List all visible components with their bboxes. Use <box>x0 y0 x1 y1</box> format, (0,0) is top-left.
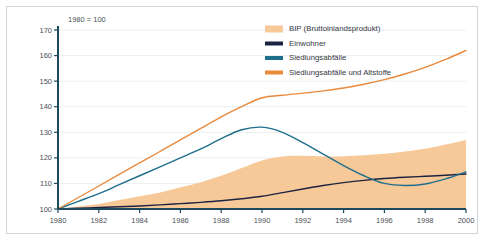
y-tick-label: 170 <box>39 26 52 35</box>
legend-label-3: Siedlungsabfälle <box>289 53 346 62</box>
x-tick-label: 2000 <box>458 216 475 225</box>
y-tick-label: 160 <box>39 51 52 60</box>
legend-swatch-2 <box>265 42 283 46</box>
x-tick-label: 1990 <box>254 216 271 225</box>
y-tick-label: 150 <box>39 77 52 86</box>
y-tick-label: 110 <box>40 179 52 188</box>
y-tick-label: 130 <box>39 128 52 137</box>
y-tick-label: 140 <box>39 102 52 111</box>
chart-canvas: 1001101201301401501601701980198219841986… <box>7 7 477 233</box>
x-tick-label: 1982 <box>90 216 107 225</box>
y-tick-label: 120 <box>39 153 52 162</box>
x-tick-label: 1980 <box>50 216 67 225</box>
y-tick-label: 100 <box>39 205 52 214</box>
legend-label-1: BIP (Bruttoinlandsprodukt) <box>289 24 381 33</box>
x-tick-label: 1986 <box>172 216 189 225</box>
legend-swatch-3 <box>265 56 283 60</box>
x-tick-label: 1988 <box>213 216 230 225</box>
legend-label-4: Siedlungsabfälle und Altstoffe <box>289 68 391 77</box>
x-tick-label: 1996 <box>376 216 393 225</box>
x-tick-label: 1994 <box>335 216 352 225</box>
x-tick-label: 1984 <box>131 216 148 225</box>
index-note: 1980 = 100 <box>68 15 106 24</box>
legend-label-2: Einwohner <box>289 39 326 48</box>
legend-swatch-1 <box>265 26 283 33</box>
chart-frame: 1001101201301401501601701980198219841986… <box>6 6 478 234</box>
x-tick-label: 1992 <box>294 216 311 225</box>
x-tick-label: 1998 <box>417 216 434 225</box>
legend-swatch-4 <box>265 71 283 75</box>
